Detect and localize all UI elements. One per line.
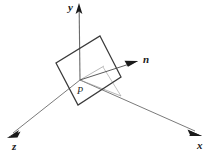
x-axis <box>80 80 202 136</box>
z-axis-line <box>13 80 80 133</box>
y-axis-label: y <box>68 2 73 13</box>
plane-outline <box>56 36 121 105</box>
diagram-canvas <box>0 0 214 160</box>
plane-quadrilateral <box>56 36 121 105</box>
y-axis <box>76 3 83 80</box>
normal-vector-line <box>80 64 131 81</box>
helper-line-right <box>80 80 121 96</box>
point-p-label: P <box>77 86 83 96</box>
z-axis-label: z <box>12 141 16 152</box>
normal-vector-arrowhead-fill <box>125 61 139 67</box>
y-axis-line <box>79 12 80 80</box>
x-axis-label: x <box>197 140 203 151</box>
x-axis-line <box>80 80 195 131</box>
normal-vector-label: n <box>143 54 149 65</box>
vector-plane-diagram: y n P z x <box>0 0 214 160</box>
